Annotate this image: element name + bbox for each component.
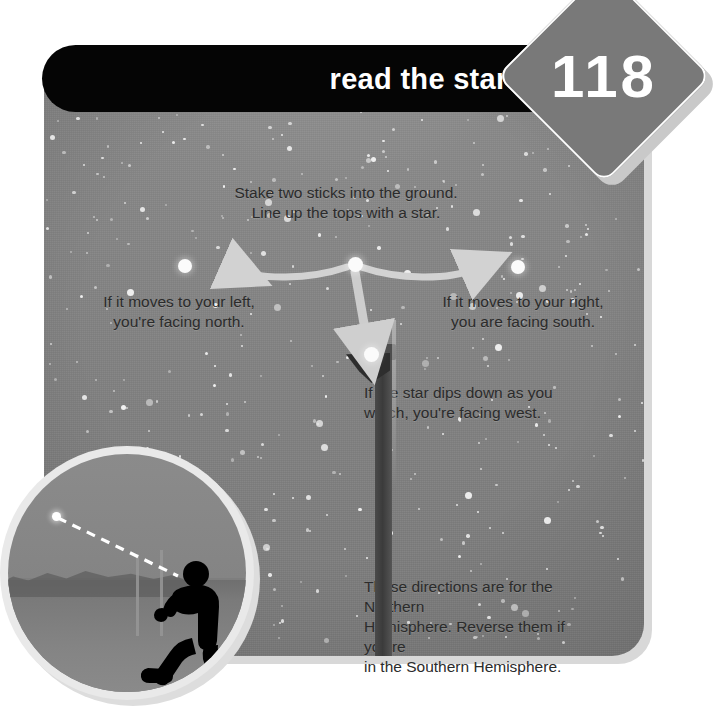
instruction-left-line2: you're facing north. [60, 312, 298, 332]
inset-detail-circle [8, 454, 246, 692]
instruction-top-line2: Line up the tops with a star. [150, 203, 542, 223]
hemisphere-note-line2: Hemisphere. Reverse them if you're [364, 617, 608, 657]
title-banner: read the stars [42, 45, 552, 112]
instruction-top-line1: Stake two sticks into the ground. [150, 183, 542, 203]
hemisphere-note-line1: These directions are for the Northern [364, 577, 608, 617]
lower-star [364, 347, 379, 362]
instruction-right-line2: you are facing south. [404, 312, 642, 332]
instruction-west: If the star dips down as you watch, you'… [364, 383, 588, 423]
right-star [511, 260, 525, 274]
staked-stick [375, 348, 392, 656]
instruction-left: If it moves to your left, you're facing … [60, 292, 298, 332]
second-stick [392, 320, 396, 490]
instruction-right-line1: If it moves to your right, [404, 292, 642, 312]
instruction-right: If it moves to your right, you are facin… [404, 292, 642, 332]
instruction-west-line2: watch, you're facing west. [364, 403, 588, 423]
left-star [178, 259, 192, 273]
instruction-left-line1: If it moves to your left, [60, 292, 298, 312]
hemisphere-note-line3: in the Southern Hemisphere. [364, 657, 608, 677]
center-star [348, 257, 363, 272]
instruction-top: Stake two sticks into the ground. Line u… [150, 183, 542, 223]
person-sighting-star [134, 542, 242, 688]
hemisphere-note: These directions are for the Northern He… [364, 577, 608, 677]
instruction-west-line1: If the star dips down as you [364, 383, 588, 403]
page-title: read the stars [330, 62, 524, 95]
